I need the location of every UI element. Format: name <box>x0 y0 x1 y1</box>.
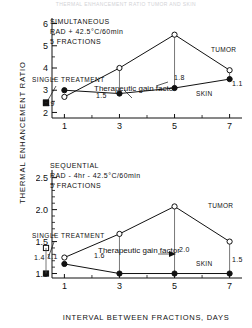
x-tick-label: 5 <box>172 121 177 131</box>
panel-subtitle-simultaneous: RAD + 42.5°C/60min <box>50 28 123 35</box>
y-tick-label: 6 <box>43 19 48 29</box>
panel-title-simultaneous: SIMULTANEOUS <box>50 18 110 25</box>
gain-value-bottom-0: 1.4 <box>34 254 45 261</box>
data-point-tumor <box>172 204 177 209</box>
data-point-tumor <box>227 68 232 73</box>
x-axis-title: INTERVAL BETWEEN FRACTIONS, DAYS <box>40 313 252 322</box>
data-point-tumor <box>62 94 67 99</box>
data-point-tumor <box>117 231 122 236</box>
gain-value-top-1: 1.5 <box>96 92 107 99</box>
x-tick-label: 1 <box>62 281 67 291</box>
gain-value-bottom-0b: 1.1 <box>47 253 58 260</box>
y-tick-label: 5 <box>43 41 48 51</box>
gain-value-top-0: 0.9 <box>44 100 55 107</box>
faint-header-text: THERMAL ENHANCEMENT RATIO TUMOR AND SKIN <box>26 1 226 9</box>
x-tick-label: 7 <box>227 281 232 291</box>
series-label-tumor-bottom: TUMOR <box>208 202 233 209</box>
panel-fractions-simultaneous: 5 FRACTIONS <box>50 38 101 45</box>
chart-panel-simultaneous: 234561357 SIMULTANEOUS RAD + 42.5°C/60mi… <box>36 14 252 138</box>
single-treatment-label-bottom: SINGLE TREATMENT <box>32 232 105 239</box>
x-tick-label: 3 <box>117 281 122 291</box>
x-tick-label: 3 <box>117 121 122 131</box>
x-tick-label: 5 <box>172 281 177 291</box>
y-axis-title: THERMAL ENHANCEMENT RATIO <box>18 53 27 213</box>
panel-fractions-sequential: 5 FRACTIONS <box>50 182 101 189</box>
data-point-skin <box>117 271 122 276</box>
data-point-tumor <box>227 239 232 244</box>
data-point-tumor <box>172 32 177 37</box>
panel-title-sequential: SEQUENTIAL <box>50 162 99 169</box>
y-tick-label: 3 <box>43 85 48 95</box>
plot-area-sequential: 1.01.52.02.51357 <box>36 160 252 300</box>
gain-value-bottom-3: 1.5 <box>232 256 243 263</box>
gain-value-top-2: 1.8 <box>174 74 185 81</box>
gain-value-top-3: 1.1 <box>232 80 243 87</box>
y-tick-label: 2.0 <box>36 205 48 215</box>
series-label-skin-bottom: SKIN <box>196 260 212 267</box>
data-point-tumor <box>62 255 67 260</box>
y-tick-label: 2 <box>43 108 48 118</box>
data-point-skin <box>172 271 177 276</box>
series-label-tumor-top: TUMOR <box>211 46 236 53</box>
data-point-skin <box>62 88 67 93</box>
y-tick-label: 2.5 <box>36 173 48 183</box>
gain-value-bottom-2: 2.0 <box>179 246 190 253</box>
gain-value-bottom-1: 1.6 <box>94 252 105 259</box>
series-label-skin-top: SKIN <box>196 90 212 97</box>
chart-panel-sequential: 1.01.52.02.51357 SEQUENTIAL RAD - 4hr - … <box>36 160 252 300</box>
x-tick-label: 1 <box>62 121 67 131</box>
single-treatment-label-top: SINGLE TREATMENT <box>32 76 105 83</box>
data-point-tumor <box>117 65 122 70</box>
therapeutic-gain-factor-label-bottom: Therapeutic gain factor <box>98 246 180 255</box>
data-point-skin <box>227 271 232 276</box>
data-point-skin <box>62 261 67 266</box>
y-tick-label: 4 <box>43 63 48 73</box>
figure-root: THERMAL ENHANCEMENT RATIO TUMOR AND SKIN… <box>0 0 252 328</box>
panel-subtitle-sequential: RAD - 4hr - 42.5°C/60min <box>50 172 141 179</box>
x-tick-label: 7 <box>227 121 232 131</box>
